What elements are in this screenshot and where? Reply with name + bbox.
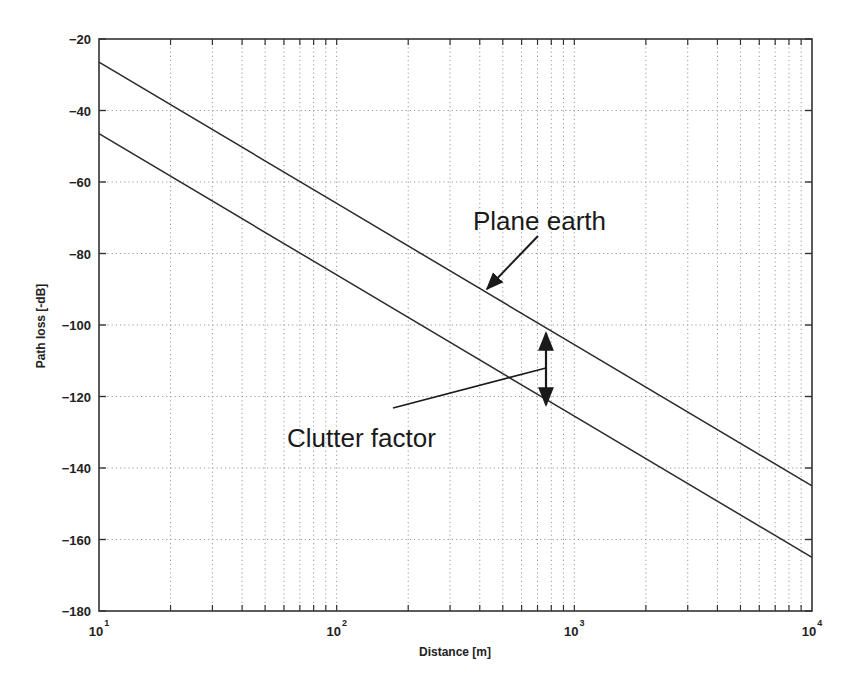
y-tick-label: −100 — [62, 318, 91, 333]
x-tick-label: 104 — [802, 618, 822, 639]
series-line — [99, 134, 812, 558]
axes-box — [99, 39, 812, 611]
y-tick-label: −180 — [62, 604, 91, 619]
y-axis-label: Path loss [-dB] — [34, 284, 48, 369]
x-tick-label: 101 — [89, 618, 109, 639]
x-tick-label: 102 — [326, 618, 346, 639]
clutter-factor-leader-line — [393, 368, 546, 408]
axis-labels: Distance [m] Path loss [-dB] Plane earth… — [34, 206, 606, 659]
data-series — [99, 62, 812, 557]
x-axis-label: Distance [m] — [419, 645, 491, 659]
y-tick-label: −160 — [62, 533, 91, 548]
grid-lines — [99, 39, 812, 611]
y-tick-label: −80 — [69, 247, 91, 262]
clutter-factor-annotation: Clutter factor — [287, 423, 436, 453]
y-tick-label: −60 — [69, 175, 91, 190]
x-tick-label: 103 — [564, 618, 584, 639]
y-tick-label: −140 — [62, 461, 91, 476]
plane-earth-annotation: Plane earth — [473, 206, 606, 236]
axis-ticks: −20−40−60−80−100−120−140−160−18010110210… — [62, 32, 823, 639]
path-loss-chart: −20−40−60−80−100−120−140−160−18010110210… — [0, 0, 862, 687]
y-tick-label: −40 — [69, 104, 91, 119]
y-tick-label: −20 — [69, 32, 91, 47]
plane-earth-arrow — [487, 236, 538, 289]
y-tick-label: −120 — [62, 390, 91, 405]
series-line — [99, 62, 812, 486]
plot-frame — [99, 39, 812, 611]
